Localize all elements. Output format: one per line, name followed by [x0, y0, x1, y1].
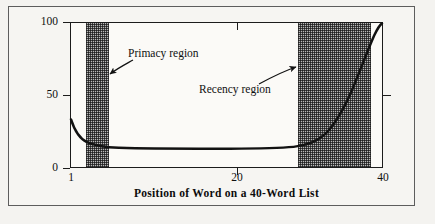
y-tick-50 [63, 95, 70, 96]
x-tick-top-20 [237, 22, 238, 30]
figure-screenshot: 100 50 0 1 20 40 Successful Recall (Perc… [0, 0, 435, 224]
y-tick-0 [63, 168, 70, 169]
serial-position-chart: 100 50 0 1 20 40 Successful Recall (Perc… [0, 0, 435, 224]
x-tick-label-20: 20 [217, 172, 257, 184]
recency-region-annotation: Recency region [199, 84, 271, 96]
x-tick-label-40: 40 [363, 172, 403, 184]
y-tick-100 [63, 22, 70, 23]
y-tick-label-50: 50 [18, 89, 58, 101]
y-tick-right-50 [383, 95, 391, 96]
x-tick-label-1: 1 [51, 172, 91, 184]
x-axis-title: Position of Word on a 40-Word List [70, 187, 383, 199]
y-tick-label-100: 100 [18, 16, 58, 28]
primacy-region-annotation: Primacy region [128, 48, 199, 60]
